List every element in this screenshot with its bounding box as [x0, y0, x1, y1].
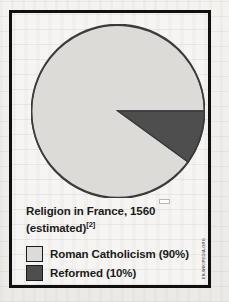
attribution-watermark: EN.WIKIPEDIA.ORG: [201, 238, 206, 279]
figure-frame: Religion in France, 1560 (estimated)[2] …: [9, 10, 211, 288]
legend-item-roman-catholicism: Roman Catholicism (90%): [26, 245, 206, 263]
legend-swatch-reformed: [26, 265, 43, 281]
legend-item-reformed: Reformed (10%): [26, 264, 206, 282]
chart-legend: Roman Catholicism (90%) Reformed (10%): [26, 245, 206, 283]
figure-caption: Religion in France, 1560 (estimated)[2]: [26, 204, 202, 235]
legend-label-reformed: Reformed (10%): [50, 267, 136, 279]
legend-label-roman-catholicism: Roman Catholicism (90%): [50, 248, 189, 260]
caption-line-1: Religion in France, 1560: [26, 205, 155, 217]
caption-citation: [2]: [86, 220, 95, 229]
pie-chart: [31, 24, 205, 198]
caption-line-2: (estimated): [26, 222, 86, 234]
legend-swatch-roman-catholicism: [26, 246, 43, 262]
pie-chart-svg: [31, 24, 205, 198]
